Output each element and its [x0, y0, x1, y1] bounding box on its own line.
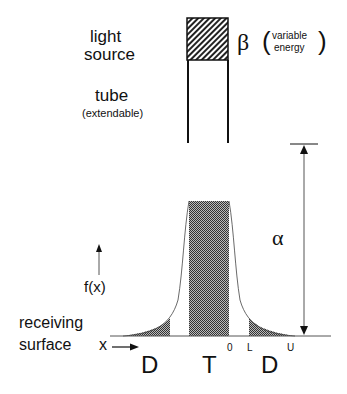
alpha-symbol: α	[272, 227, 284, 249]
left-tail-shade	[125, 318, 170, 336]
x-arrow-icon	[112, 344, 139, 351]
fx-label: f(x)	[84, 279, 106, 294]
region-d-right-label: D	[261, 353, 278, 377]
light-source-box	[187, 18, 228, 60]
region-t-label: T	[202, 353, 217, 377]
tube-note: (extendable)	[82, 108, 143, 119]
region-d-left-label: D	[141, 353, 158, 377]
diagram-canvas	[0, 0, 347, 394]
tube	[188, 60, 228, 143]
target-region-t	[189, 201, 229, 336]
distribution-curve	[123, 201, 189, 336]
surface-label-2: surface	[19, 337, 71, 353]
mark-u-label: U	[287, 343, 294, 353]
beta-open-paren: (	[262, 28, 271, 54]
tube-label: tube	[95, 87, 128, 104]
surface-label-1: receiving	[19, 315, 83, 331]
light-source-label-1: light	[90, 28, 121, 45]
mark-0-label: 0	[227, 343, 233, 353]
beta-close-paren: )	[318, 28, 327, 54]
light-source-label-2: source	[84, 46, 135, 63]
alpha-dimension	[290, 144, 318, 335]
mark-l-label: L	[247, 343, 253, 353]
beta-note-2: energy	[274, 43, 305, 53]
x-axis-label: x	[99, 337, 107, 353]
beta-symbol: β	[237, 30, 249, 54]
right-tail-shade	[249, 318, 293, 336]
distribution-curve-right	[229, 201, 295, 336]
beta-note-1: variable	[272, 31, 307, 41]
fx-arrow-icon	[96, 244, 102, 275]
